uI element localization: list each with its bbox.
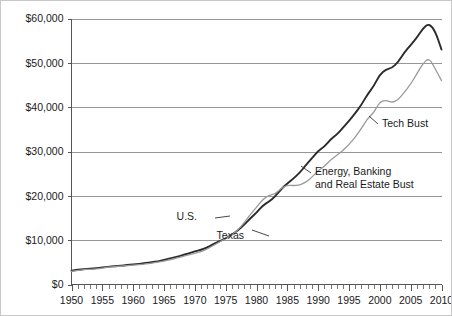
series-line-u-s	[72, 25, 442, 271]
x-tick-label-1950: 1950	[60, 294, 84, 306]
annotation-us-label: U.S.	[177, 210, 197, 222]
annotation-texas-label: Texas	[217, 229, 244, 241]
line-chart: $0$10,000$20,000$30,000$40,000$50,000$60…	[1, 1, 452, 316]
x-tick-label-1990: 1990	[306, 294, 330, 306]
x-tick-label-1975: 1975	[214, 294, 238, 306]
axes	[72, 19, 442, 285]
leader-line-us	[215, 216, 230, 218]
axis-ticks	[68, 20, 443, 291]
x-axis-tick-labels: 1950195519601965197019751980198519901995…	[60, 294, 452, 306]
annotation-energy-bust-label-line1: Energy, Banking	[315, 165, 391, 177]
x-tick-label-1985: 1985	[276, 294, 300, 306]
y-tick-label-30000: $30,000	[26, 145, 64, 157]
chart-container: $0$10,000$20,000$30,000$40,000$50,000$60…	[0, 0, 452, 316]
x-tick-label-1955: 1955	[91, 294, 115, 306]
x-tick-label-1995: 1995	[337, 294, 361, 306]
annotation-energy-bust-label-line2: and Real Estate Bust	[315, 178, 414, 190]
y-tick-label-60000: $60,000	[26, 12, 64, 24]
annotation-labels: U.S.TexasTech BustEnergy, Bankingand Rea…	[177, 117, 429, 241]
y-tick-label-0: $0	[52, 278, 64, 290]
leader-line-texas	[252, 230, 269, 236]
x-tick-label-1980: 1980	[245, 294, 269, 306]
y-tick-label-50000: $50,000	[26, 57, 64, 69]
y-axis-tick-labels: $0$10,000$20,000$30,000$40,000$50,000$60…	[26, 12, 64, 290]
x-tick-label-2010: 2010	[430, 294, 452, 306]
y-tick-label-20000: $20,000	[26, 190, 64, 202]
leader-line-tech-bust	[369, 116, 378, 124]
annotation-tech-bust-label: Tech Bust	[382, 117, 428, 129]
y-tick-label-10000: $10,000	[26, 234, 64, 246]
x-tick-label-2005: 2005	[399, 294, 423, 306]
x-tick-label-1965: 1965	[152, 294, 176, 306]
data-series	[72, 25, 442, 272]
x-tick-label-2000: 2000	[368, 294, 392, 306]
x-tick-label-1960: 1960	[121, 294, 145, 306]
x-tick-label-1970: 1970	[183, 294, 207, 306]
y-tick-label-40000: $40,000	[26, 101, 64, 113]
